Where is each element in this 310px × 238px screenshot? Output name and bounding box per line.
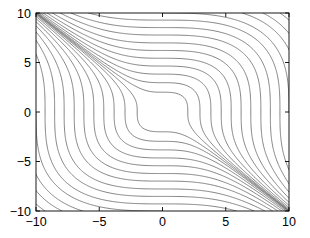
- x-tick-label: −5: [92, 215, 106, 229]
- y-tick-label: 5: [24, 56, 31, 70]
- x-tick-label: 5: [222, 215, 229, 229]
- contour-plot-canvas: −10−50510 −10−50510: [0, 0, 310, 238]
- y-tick-label: −5: [17, 155, 31, 169]
- x-tick-label: 10: [282, 215, 296, 229]
- y-tick-label: 10: [17, 7, 31, 21]
- y-tick-label: 0: [24, 106, 31, 120]
- contour-plot-figure: −10−50510 −10−50510: [0, 0, 310, 238]
- y-tick-label: −10: [10, 205, 31, 219]
- x-tick-label: 0: [159, 215, 166, 229]
